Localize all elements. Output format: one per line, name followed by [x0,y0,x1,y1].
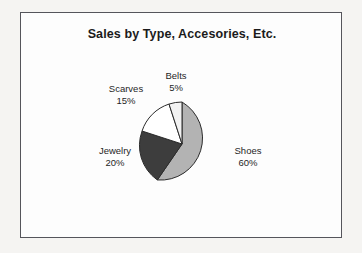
page-background: Sales by Type, Accesories, Etc. Belts 5%… [0,0,362,253]
pie-label-scarves-name: Scarves [97,83,155,95]
pie-label-scarves-percent: 15% [97,95,155,107]
pie-label-scarves: Scarves 15% [97,83,155,106]
pie-label-jewelry: Jewelry 20% [89,145,141,168]
pie-label-jewelry-name: Jewelry [89,145,141,157]
pie-label-belts: Belts 5% [153,70,199,93]
pie-label-belts-name: Belts [153,70,199,82]
chart-frame: Sales by Type, Accesories, Etc. Belts 5%… [20,12,342,238]
pie-chart-svg [21,13,343,239]
pie-label-shoes-name: Shoes [225,145,271,157]
pie-chart: Belts 5% Scarves 15% Jewelry 20% Shoes 6… [21,13,343,239]
pie-label-belts-percent: 5% [153,82,199,94]
pie-label-shoes-percent: 60% [225,157,271,169]
pie-label-jewelry-percent: 20% [89,157,141,169]
pie-label-shoes: Shoes 60% [225,145,271,168]
